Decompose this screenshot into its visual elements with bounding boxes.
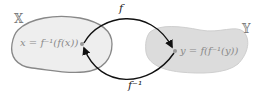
codomain-expression: y = f(f⁻¹(y)) (180, 45, 238, 56)
domain-set-label: 𝕏 (14, 12, 23, 26)
domain-expression: x = f⁻¹(f(x)) (20, 37, 78, 48)
point-y (173, 49, 177, 53)
forward-map-label: f (119, 2, 123, 15)
inverse-map-label: f⁻¹ (128, 79, 142, 92)
codomain-set-label: 𝕐 (242, 22, 251, 36)
point-x (80, 42, 84, 46)
